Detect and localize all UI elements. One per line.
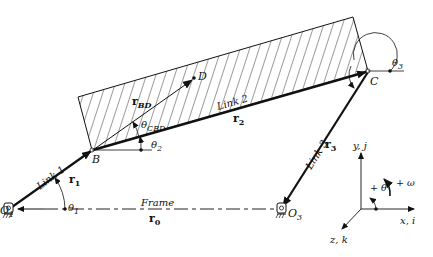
- ground-pivot-o3-icon: [276, 203, 286, 218]
- r2-label: r2: [233, 112, 244, 127]
- x-axis-label: x, i: [400, 215, 415, 226]
- r3-label: r3: [325, 138, 337, 153]
- z-axis-label: z, k: [329, 234, 348, 245]
- y-axis-label: y, j: [352, 140, 367, 151]
- label-c: C: [370, 75, 379, 88]
- label-o3: O3: [288, 207, 302, 222]
- point-d-dot: [192, 76, 196, 80]
- positive-theta-label: + θ: [370, 182, 387, 193]
- frame-label: Frame: [140, 197, 174, 208]
- r1-label: r1: [69, 173, 80, 188]
- theta-2-label: θ2: [151, 139, 162, 153]
- theta-1-arc: [55, 178, 67, 211]
- link-1-label: Link 1: [34, 164, 67, 193]
- label-d: D: [197, 70, 207, 83]
- theta-1-label: θ1: [68, 202, 79, 216]
- r0-label: r0: [149, 212, 161, 227]
- label-b: B: [91, 153, 100, 166]
- four-bar-linkage-diagram: O1 B C D O3 Link 1 r1 Link 2 r2 Link 3 r…: [0, 0, 433, 257]
- theta-3-label: θ3: [392, 57, 403, 71]
- positive-omega-label: + ω: [396, 177, 415, 188]
